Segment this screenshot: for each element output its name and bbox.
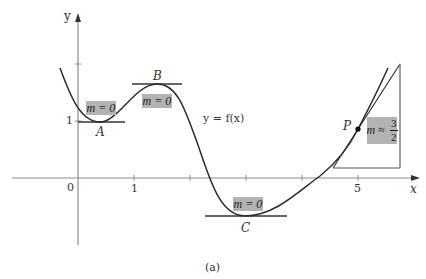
point-label-P: P [343,120,351,132]
point-label-C: C [241,222,250,234]
slope-box-P: m ≈ 3 2 [367,117,397,144]
function-curve [60,68,388,216]
point-label-B: B [153,70,162,82]
y-axis [75,13,81,245]
x-tick-label-5: 5 [354,183,361,194]
slope-text-B: m = 0 [143,94,172,109]
slope-box-A: m = 0 [86,101,116,115]
slope-text-P: m ≈ [366,123,384,138]
slope-text-C: m = 0 [234,197,263,212]
slope-numerator-P: 3 [391,118,397,129]
y-axis-label: y [64,10,71,22]
point-P-marker [355,126,360,131]
point-label-A: A [96,126,105,138]
x-axis-arrow-icon [411,175,420,181]
slope-text-A: m = 0 [87,101,116,116]
slope-box-C: m = 0 [233,197,263,211]
slope-box-B: m = 0 [142,94,172,108]
y-axis-arrow-icon [75,13,81,22]
origin-label: 0 [67,182,74,193]
curve-label: y = f(x) [203,113,244,124]
slope-fraction-P: 3 2 [390,118,398,143]
figure-caption: (a) [205,262,220,273]
x-tick-label-1: 1 [131,183,138,194]
x-axis-label: x [410,183,417,195]
y-tick-label-1: 1 [66,115,73,126]
slope-denominator-P: 2 [391,132,397,143]
function-graph [0,0,426,279]
